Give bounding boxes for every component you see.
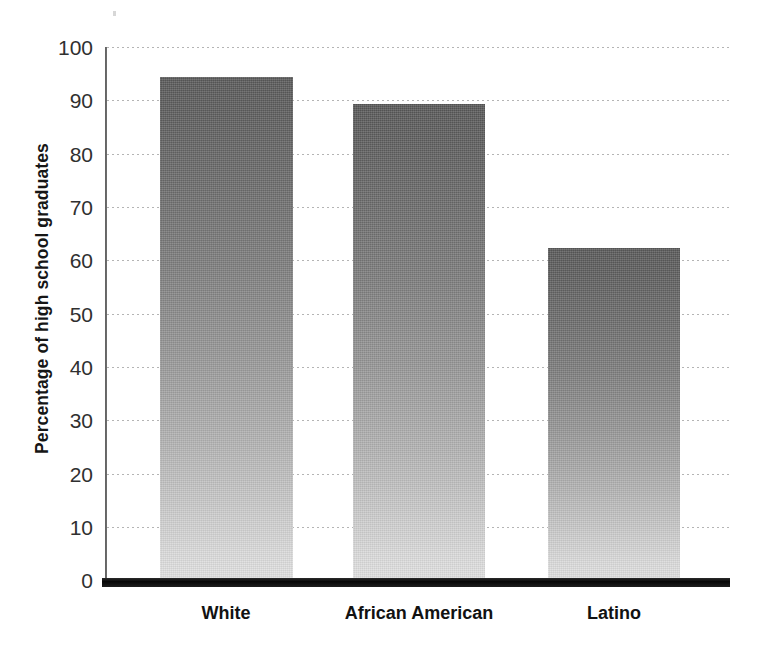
y-tick-label-100: 100 [27,37,93,58]
bar-latino[interactable] [548,248,680,578]
x-tick-label-latino: Latino [587,603,641,624]
y-tick-label-70: 70 [27,197,93,218]
y-tick-label-80: 80 [27,144,93,165]
y-tick-label-50: 50 [27,304,93,325]
x-axis-line [102,578,730,587]
y-tick-label-20: 20 [27,464,93,485]
gridline-100 [107,47,730,48]
y-tick-label-40: 40 [27,357,93,378]
bar-white[interactable] [160,77,293,578]
y-tick-label-90: 90 [27,90,93,111]
x-tick-label-african-american: African American [345,603,493,624]
y-tick-label-10: 10 [27,517,93,538]
bar-chart-figure: Percentage of high school graduates 100 … [0,0,757,649]
bar-african-american[interactable] [353,104,485,578]
y-tick-label-30: 30 [27,410,93,431]
y-tick-label-0: 0 [27,570,93,591]
scan-artifact-speck [113,11,116,16]
x-tick-label-white: White [202,603,251,624]
plot-area: 100 90 80 70 60 50 40 30 20 10 0 White A… [105,47,730,580]
y-tick-label-60: 60 [27,250,93,271]
